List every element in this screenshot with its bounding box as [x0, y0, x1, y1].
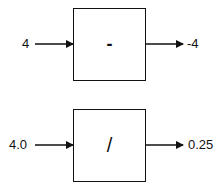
- input-value-2: 4.0: [9, 138, 27, 152]
- operator-symbol-2: /: [74, 134, 145, 157]
- output-value-2: 0.25: [188, 138, 213, 152]
- negate-operator-box: -: [73, 8, 146, 81]
- reciprocal-operator-box: /: [73, 109, 146, 182]
- operator-symbol-1: -: [74, 34, 145, 55]
- input-value-1: 4: [22, 37, 29, 51]
- output-value-1: -4: [187, 37, 199, 51]
